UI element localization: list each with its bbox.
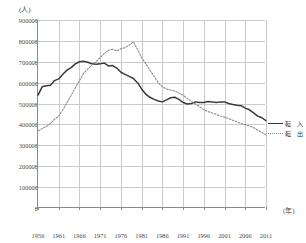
legend-item[interactable]: 転 出 [268, 128, 306, 138]
legend-line-swatch-icon [268, 130, 283, 136]
legend-line-swatch-icon [268, 120, 283, 126]
gridline-vertical [266, 20, 267, 207]
x-tick-mark [266, 207, 267, 210]
series-line-in [38, 61, 266, 120]
x-tick-label: 1976 [115, 232, 128, 239]
chart-container: (人) (年) 90000080000070000060000050000040… [0, 0, 306, 243]
series-lines [38, 20, 266, 208]
legend-item-label: 転 出 [285, 130, 303, 137]
x-tick-label: 1986 [156, 232, 169, 239]
x-tick-label: 1996 [197, 232, 210, 239]
x-tick-label: 2006 [239, 232, 252, 239]
legend: 転 入転 出 [268, 118, 306, 138]
legend-item[interactable]: 転 入 [268, 118, 306, 128]
x-tick-label: 1991 [177, 232, 190, 239]
plot-area: 1956196119661971197619811986199119962001… [37, 20, 265, 208]
x-tick-label: 2001 [218, 232, 231, 239]
legend-item-label: 転 入 [285, 120, 303, 127]
y-axis-unit-label: (人) [19, 4, 31, 14]
x-tick-label: 1971 [94, 232, 107, 239]
x-tick-label: 1981 [135, 232, 148, 239]
x-tick-label: 2011 [260, 232, 273, 239]
x-tick-label: 1956 [32, 232, 45, 239]
series-line-out [38, 42, 266, 135]
x-tick-label: 1961 [52, 232, 65, 239]
x-tick-label: 1966 [73, 232, 86, 239]
x-axis-unit-label: (年) [283, 205, 295, 215]
